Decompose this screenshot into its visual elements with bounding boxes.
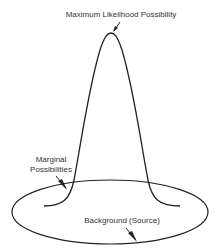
marginal-label-line1: Marginal: [36, 155, 67, 164]
background-ellipse: [12, 180, 208, 244]
peak-label: Maximum Likelihood Possibility: [66, 10, 177, 19]
marginal-label-line2: Possibilities: [30, 165, 72, 174]
background-label: Background (Source): [84, 216, 160, 225]
likelihood-diagram: Maximum Likelihood Possibility Marginal …: [0, 0, 218, 252]
peak-arrow: [113, 22, 120, 32]
background-arrow: [126, 228, 137, 242]
